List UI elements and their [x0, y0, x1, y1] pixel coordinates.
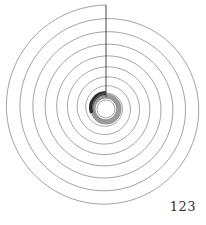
center-hole	[97, 100, 115, 118]
spiral-diagram	[0, 0, 206, 225]
page-number: 123	[170, 199, 196, 214]
